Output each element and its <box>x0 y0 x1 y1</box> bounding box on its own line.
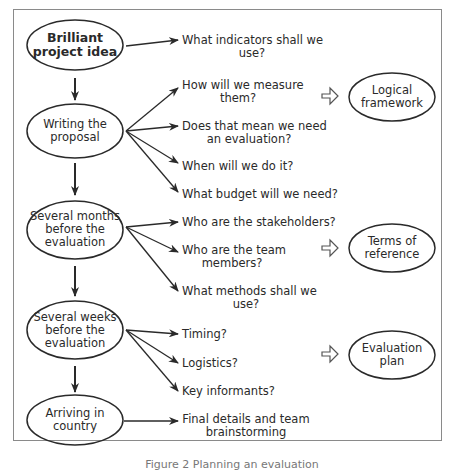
outline-arrow-icon <box>322 240 338 256</box>
stage-label-weeks: Several weeksbefore theevaluation <box>25 311 125 350</box>
outline-arrow-icon <box>322 88 338 104</box>
question-methods: What methods shall weuse? <box>182 285 310 311</box>
question-stakeholders: Who are the stakeholders? <box>182 216 336 229</box>
stage-label-idea: Brilliantproject idea <box>27 31 123 59</box>
stage-label-arriving: Arriving incountry <box>27 407 123 433</box>
question-indicators: What indicators shall weuse? <box>182 34 322 60</box>
stage-label-proposal: Writing theproposal <box>27 118 123 144</box>
question-need-evaluation: Does that mean we needan evaluation? <box>182 120 316 146</box>
question-team-members: Who are the teammembers? <box>182 244 282 270</box>
figure-caption: Figure 2 Planning an evaluation <box>0 458 464 471</box>
question-measure: How will we measurethem? <box>182 79 294 105</box>
question-when: When will we do it? <box>182 160 293 173</box>
stage-label-months: Several monthsbefore theevaluation <box>25 210 125 249</box>
question-budget: What budget will we need? <box>182 188 338 201</box>
output-label-logframe: Logicalframework <box>350 84 434 110</box>
output-label-tor: Terms ofreference <box>350 235 434 261</box>
question-timing: Timing? <box>182 328 227 341</box>
question-logistics: Logistics? <box>182 357 238 370</box>
output-label-plan: Evaluationplan <box>350 342 434 368</box>
question-key-informants: Key informants? <box>182 385 275 398</box>
question-final-details: Final details and teambrainstorming <box>182 413 310 439</box>
outline-arrow-icon <box>322 346 338 362</box>
